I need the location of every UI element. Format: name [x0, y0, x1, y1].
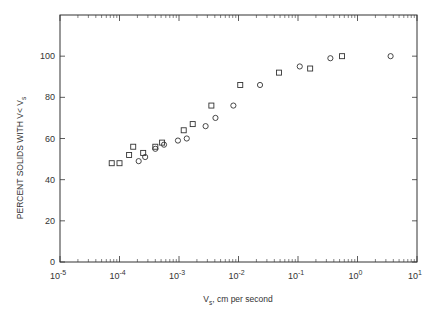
y-tick-label: 60 [45, 134, 55, 144]
circle-marker [388, 54, 393, 59]
circle-marker [136, 159, 141, 164]
x-tick-label: 10-5 [50, 269, 66, 281]
circle-marker [231, 103, 236, 108]
y-tick-label: 100 [40, 51, 55, 61]
square-marker [340, 54, 345, 59]
square-marker [117, 161, 122, 166]
square-marker [190, 122, 195, 127]
square-marker [308, 66, 313, 71]
square-marker [209, 103, 214, 108]
circle-marker [328, 56, 333, 61]
scatter-chart: 10-510-410-310-210-1100101 020406080100 … [0, 0, 438, 320]
x-axis-label: Vs, cm per second [203, 294, 273, 306]
x-tick-label: 100 [349, 269, 363, 281]
y-axis-label: PERCENT SOLIDS WITH V< Vs [15, 96, 27, 219]
x-tick-label: 10-2 [228, 269, 244, 281]
square-marker [131, 144, 136, 149]
y-tick-label: 20 [45, 216, 55, 226]
circle-marker [175, 138, 180, 143]
circle-marker [184, 136, 189, 141]
square-marker [109, 161, 114, 166]
circle-marker [213, 115, 218, 120]
x-axis-ticks: 10-510-410-310-210-1100101 [50, 15, 422, 281]
y-tick-label: 0 [50, 257, 55, 267]
circle-marker [257, 82, 262, 87]
square-marker [181, 128, 186, 133]
x-tick-label: 10-4 [109, 269, 125, 281]
y-tick-label: 80 [45, 92, 55, 102]
square-marker [127, 152, 132, 157]
data-markers [109, 54, 393, 166]
circle-marker [297, 64, 302, 69]
x-tick-label: 101 [408, 269, 422, 281]
x-tick-label: 10-1 [288, 269, 304, 281]
plot-frame [60, 15, 417, 262]
x-tick-label: 10-3 [169, 269, 185, 281]
circle-marker [203, 124, 208, 129]
y-axis-ticks: 020406080100 [40, 51, 417, 267]
y-tick-label: 40 [45, 175, 55, 185]
square-marker [238, 82, 243, 87]
square-marker [277, 70, 282, 75]
